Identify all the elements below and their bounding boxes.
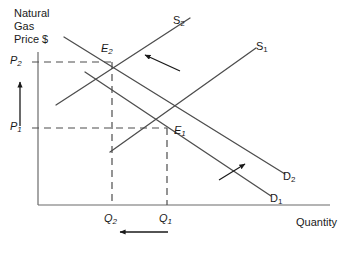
curve-label-demand-1-sub: 1 bbox=[278, 197, 282, 206]
supply-curves bbox=[56, 18, 256, 152]
curve-label-demand-2-sub: 2 bbox=[291, 175, 295, 184]
equilibrium-label-e1: E1 bbox=[174, 124, 186, 137]
tick-label-price-p1-sub: 1 bbox=[17, 125, 21, 134]
tick-label-quantity-q1: Q1 bbox=[159, 212, 172, 225]
tick-label-price-p2: P2 bbox=[10, 54, 22, 67]
guide-lines bbox=[32, 62, 167, 205]
y-axis-title-line-1: Natural bbox=[14, 7, 49, 20]
y-axis-title: Natural Gas Price $ bbox=[14, 7, 49, 46]
supply-shift-arrow bbox=[145, 55, 180, 71]
curve-label-supply-1: S1 bbox=[256, 40, 268, 53]
x-axis-title: Quantity bbox=[296, 216, 337, 229]
curve-label-demand-1: D1 bbox=[270, 192, 282, 205]
supply-curve-2 bbox=[56, 18, 190, 105]
tick-label-quantity-q2-sub: 2 bbox=[113, 217, 117, 226]
tick-label-quantity-q1-sub: 1 bbox=[168, 217, 172, 226]
equilibrium-label-e1-sub: 1 bbox=[181, 129, 185, 138]
tick-label-quantity-q2-base: Q bbox=[104, 212, 113, 224]
curve-label-supply-2: S2 bbox=[173, 14, 185, 27]
tick-label-price-p1: P1 bbox=[10, 120, 22, 133]
equilibrium-label-e2: E2 bbox=[101, 42, 113, 55]
curve-label-supply-1-sub: 1 bbox=[263, 45, 267, 54]
demand-curve-2 bbox=[64, 37, 285, 174]
y-axis-title-line-2: Gas bbox=[14, 20, 49, 33]
equilibrium-label-e2-sub: 2 bbox=[108, 47, 112, 56]
demand-curves bbox=[64, 37, 285, 196]
curve-label-demand-1-base: D bbox=[270, 192, 278, 204]
curve-label-demand-2-base: D bbox=[283, 170, 291, 182]
curve-label-demand-2: D2 bbox=[283, 170, 295, 183]
supply-demand-diagram: Natural Gas Price $ Quantity P2 P1 Q2 Q1… bbox=[0, 0, 352, 254]
tick-label-price-p2-sub: 2 bbox=[17, 59, 21, 68]
tick-label-quantity-q1-base: Q bbox=[159, 212, 168, 224]
curve-label-supply-2-sub: 2 bbox=[180, 19, 184, 28]
demand-shift-arrow bbox=[219, 164, 245, 180]
y-axis-title-line-3: Price $ bbox=[14, 33, 49, 46]
tick-label-quantity-q2: Q2 bbox=[104, 212, 117, 225]
